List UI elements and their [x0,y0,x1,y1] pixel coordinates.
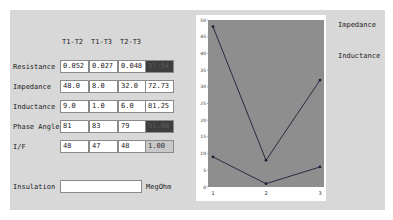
phase-angle-t1-t2[interactable]: 81 [60,120,89,133]
inductance-t1-t2[interactable]: 9.0 [60,100,89,113]
svg-text:25: 25 [200,101,206,106]
column-header-t1-t3: T1-T3 [91,38,112,46]
plot-area [208,20,324,187]
row-label-insulation: Insulation [13,183,55,191]
insulation-input[interactable] [60,180,142,193]
phase-angle-t1-t3[interactable]: 83 [89,120,118,133]
svg-text:35: 35 [200,68,206,73]
svg-text:3: 3 [318,190,321,196]
data-point [212,156,215,159]
resistance-t1-t2[interactable]: 0.052 [60,60,89,73]
phase-angle-result: 91.00 [145,120,174,133]
svg-text:45: 45 [200,34,206,39]
data-point [319,79,322,82]
if-result: 1.00 [145,140,174,153]
data-point [265,182,268,185]
svg-text:5: 5 [203,168,206,173]
inductance-result: 81.25 [145,100,174,113]
phase-angle-t2-t3[interactable]: 79 [118,120,147,133]
data-point [319,166,322,169]
impedance-t1-t2[interactable]: 48.0 [60,80,89,93]
legend-impedance: Impedance [338,21,376,29]
line-chart: 05101520253035404550 123 [196,15,326,201]
svg-text:10: 10 [200,151,206,156]
resistance-result: 37.54 [145,60,174,73]
svg-text:15: 15 [200,134,206,139]
if-t2-t3[interactable]: 48 [118,140,147,153]
resistance-t1-t3[interactable]: 0.027 [89,60,118,73]
impedance-result: 72.73 [145,80,174,93]
if-t1-t2[interactable]: 48 [60,140,89,153]
column-header-t1-t2: T1-T2 [62,38,83,46]
if-t1-t3[interactable]: 47 [89,140,118,153]
row-label-if: I/F [13,143,26,151]
resistance-t2-t3[interactable]: 0.048 [118,60,147,73]
row-label-impedance: Impedance [13,83,51,91]
data-point [212,25,215,28]
row-label-resistance: Resistance [13,63,55,71]
svg-text:1: 1 [211,190,214,196]
legend-inductance: Inductance [338,52,380,60]
svg-text:20: 20 [200,118,206,123]
row-label-inductance: Inductance [13,103,55,111]
svg-text:30: 30 [200,84,206,89]
column-header-t2-t3: T2-T3 [120,38,141,46]
svg-text:40: 40 [200,51,206,56]
svg-text:0: 0 [203,185,206,190]
impedance-t1-t3[interactable]: 8.0 [89,80,118,93]
impedance-t2-t3[interactable]: 32.0 [118,80,147,93]
row-label-phase-angle: Phase Angle [13,123,59,131]
svg-text:2: 2 [264,190,267,196]
insulation-unit: MegOhm [146,183,171,191]
inductance-t2-t3[interactable]: 6.0 [118,100,147,113]
data-point [265,159,268,162]
svg-text:50: 50 [200,18,206,23]
inductance-t1-t3[interactable]: 1.0 [89,100,118,113]
chart-svg: 05101520253035404550 123 [196,15,326,201]
